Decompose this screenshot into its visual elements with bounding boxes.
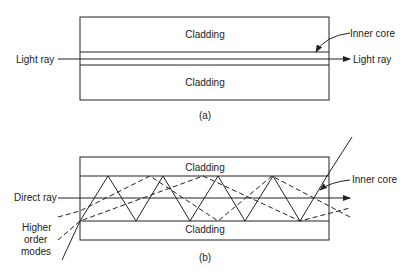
- higher-order-label-2: order: [24, 234, 47, 246]
- higher-order-label-1: Higher: [22, 222, 51, 234]
- inner-core-pointer-b: [320, 180, 350, 190]
- cladding-top-b-label: Cladding: [185, 162, 224, 174]
- inner-core-b-label: Inner core: [352, 174, 397, 186]
- cladding-bottom-b-label: Cladding: [185, 224, 224, 236]
- caption-b: (b): [199, 252, 211, 264]
- optical-fiber-diagram: Cladding Cladding Inner core Light ray L…: [0, 0, 408, 275]
- light-ray-out-label: Light ray: [353, 54, 391, 66]
- cladding-top-a-label: Cladding: [185, 29, 224, 41]
- higher-order-label-3: modes: [21, 246, 51, 258]
- direct-ray-label: Direct ray: [14, 192, 57, 204]
- light-ray-in-label: Light ray: [16, 54, 54, 66]
- cladding-bottom-a-label: Cladding: [185, 77, 224, 89]
- caption-a: (a): [199, 110, 211, 122]
- inner-core-pointer-a: [316, 33, 350, 52]
- inner-core-a-label: Inner core: [350, 28, 395, 40]
